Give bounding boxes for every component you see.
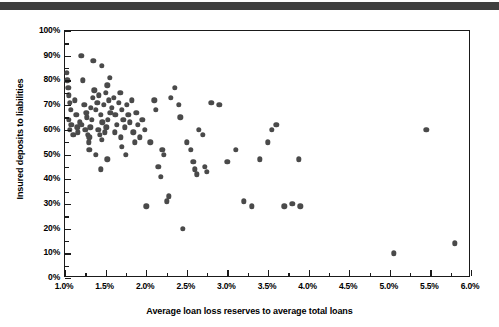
x-tick-label: 1.0% bbox=[55, 281, 74, 291]
data-point bbox=[109, 105, 114, 110]
x-tick-minor bbox=[248, 273, 249, 277]
data-point bbox=[74, 112, 79, 117]
x-tick-minor bbox=[370, 273, 371, 277]
data-point bbox=[269, 127, 274, 132]
y-tick-major bbox=[65, 278, 71, 279]
x-tick-label: 3.5% bbox=[258, 281, 277, 291]
y-tick-minor bbox=[65, 192, 69, 193]
data-point bbox=[75, 130, 80, 135]
data-point bbox=[424, 127, 429, 132]
plot-frame bbox=[64, 30, 470, 277]
data-point bbox=[123, 152, 128, 157]
data-point bbox=[129, 97, 134, 102]
data-point bbox=[82, 102, 87, 107]
x-tick-major bbox=[430, 270, 431, 276]
y-axis-tick-labels: 0%10%20%30%40%50%60%70%80%90%100% bbox=[0, 0, 60, 327]
x-tick-minor bbox=[288, 273, 289, 277]
x-tick-minor bbox=[410, 273, 411, 277]
y-tick-minor bbox=[65, 93, 69, 94]
data-point bbox=[161, 152, 166, 157]
data-point bbox=[132, 139, 137, 144]
data-point bbox=[111, 95, 116, 100]
data-point bbox=[126, 112, 131, 117]
y-tick-label: 90% bbox=[44, 50, 60, 60]
x-tick-label: 2.5% bbox=[177, 281, 196, 291]
data-point bbox=[107, 75, 112, 80]
data-point bbox=[204, 169, 209, 174]
data-point bbox=[142, 127, 147, 132]
data-point bbox=[93, 152, 98, 157]
data-point bbox=[122, 125, 127, 130]
data-point bbox=[121, 117, 126, 122]
x-tick-label: 2.0% bbox=[136, 281, 155, 291]
x-tick-label: 5.0% bbox=[380, 281, 399, 291]
x-tick-minor bbox=[126, 273, 127, 277]
scatter-chart: 0%10%20%30%40%50%60%70%80%90%100% 1.0%1.… bbox=[0, 0, 499, 327]
data-point bbox=[91, 58, 96, 63]
y-tick-label: 50% bbox=[44, 149, 60, 159]
data-point bbox=[119, 144, 124, 149]
data-point bbox=[98, 112, 103, 117]
data-point bbox=[86, 139, 91, 144]
data-point bbox=[452, 241, 457, 246]
data-point bbox=[105, 157, 110, 162]
y-tick-label: 60% bbox=[44, 124, 60, 134]
data-point bbox=[66, 85, 71, 90]
data-point bbox=[391, 251, 396, 256]
data-point bbox=[188, 147, 193, 152]
y-tick-label: 100% bbox=[39, 25, 60, 35]
data-point bbox=[241, 199, 246, 204]
data-point bbox=[102, 130, 107, 135]
data-point bbox=[92, 88, 97, 93]
data-point bbox=[298, 204, 303, 209]
data-point bbox=[139, 117, 144, 122]
data-point bbox=[208, 100, 213, 105]
data-point bbox=[131, 130, 136, 135]
y-tick-major bbox=[65, 155, 71, 156]
data-point bbox=[93, 107, 98, 112]
data-point bbox=[95, 100, 100, 105]
data-point bbox=[127, 120, 132, 125]
data-point bbox=[98, 167, 103, 172]
data-point bbox=[158, 174, 163, 179]
data-point bbox=[217, 102, 222, 107]
data-point bbox=[99, 63, 104, 68]
x-tick-major bbox=[471, 270, 472, 276]
y-tick-major bbox=[65, 56, 71, 57]
y-tick-label: 20% bbox=[44, 223, 60, 233]
data-point bbox=[90, 95, 95, 100]
data-point bbox=[282, 204, 287, 209]
data-point bbox=[233, 147, 238, 152]
data-point bbox=[79, 53, 84, 58]
x-tick-major bbox=[349, 270, 350, 276]
x-tick-major bbox=[309, 270, 310, 276]
y-tick-label: 10% bbox=[44, 247, 60, 257]
x-tick-major bbox=[146, 270, 147, 276]
data-point bbox=[87, 125, 92, 130]
data-point bbox=[194, 172, 199, 177]
data-point bbox=[191, 159, 196, 164]
data-point bbox=[101, 102, 106, 107]
y-tick-label: 30% bbox=[44, 198, 60, 208]
data-point bbox=[119, 107, 124, 112]
data-point bbox=[156, 164, 161, 169]
y-tick-major bbox=[65, 80, 71, 81]
data-point bbox=[89, 117, 94, 122]
y-axis-title: Insured deposits to liabilities bbox=[15, 44, 25, 234]
data-point bbox=[118, 135, 123, 140]
x-tick-label: 5.5% bbox=[420, 281, 439, 291]
data-point bbox=[118, 90, 123, 95]
data-point bbox=[113, 112, 118, 117]
data-point bbox=[143, 204, 148, 209]
x-tick-label: 4.0% bbox=[298, 281, 317, 291]
data-point bbox=[68, 107, 73, 112]
data-point bbox=[103, 90, 108, 95]
data-point bbox=[153, 107, 158, 112]
x-axis-title: Average loan loss reserves to average to… bbox=[0, 306, 499, 316]
x-tick-minor bbox=[85, 273, 86, 277]
data-point bbox=[290, 201, 295, 206]
x-tick-minor bbox=[329, 273, 330, 277]
y-tick-major bbox=[65, 105, 71, 106]
y-tick-minor bbox=[65, 43, 69, 44]
y-tick-major bbox=[65, 229, 71, 230]
